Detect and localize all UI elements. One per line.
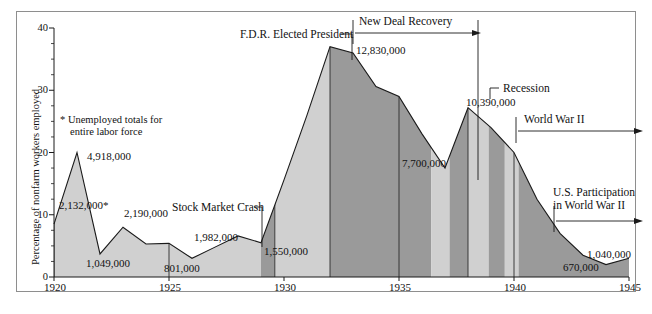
x-tick-label-1930: 1930 bbox=[264, 281, 306, 293]
x-tick-label-1945: 1945 bbox=[609, 281, 651, 293]
band-dark bbox=[519, 22, 629, 279]
x-tick-label-1925: 1925 bbox=[149, 281, 191, 293]
data-label-1932: 12,830,000 bbox=[356, 44, 406, 56]
annotation-fdr-elected: F.D.R. Elected President bbox=[240, 28, 353, 41]
y-axis bbox=[49, 28, 54, 277]
x-tick-label-1940: 1940 bbox=[494, 281, 536, 293]
footnote-line-2: entire labor force bbox=[70, 126, 142, 138]
data-label-1945: 1,040,000 bbox=[587, 248, 631, 260]
x-axis bbox=[54, 277, 629, 281]
band-dark bbox=[330, 22, 431, 279]
annotation-new-deal-recovery: New Deal Recovery bbox=[359, 15, 452, 28]
y-tick-label-20: 20 bbox=[26, 147, 48, 158]
x-tick-label-1920: 1920 bbox=[34, 281, 76, 293]
annotation-us-participation-line-1: U.S. Participation bbox=[553, 186, 635, 199]
y-tick-label-40: 40 bbox=[26, 22, 48, 33]
data-label-1935: 7,700,000 bbox=[402, 157, 446, 169]
band-dark bbox=[489, 22, 505, 279]
y-tick-label-30: 30 bbox=[26, 84, 48, 95]
footnote-line-1: * Unemployed totals for bbox=[60, 114, 162, 126]
data-label-1921: 4,918,000 bbox=[87, 150, 131, 162]
band-dark bbox=[450, 22, 468, 279]
data-label-1928: 1,982,000 bbox=[194, 231, 238, 243]
band-dark bbox=[261, 22, 275, 279]
x-tick-label-1935: 1935 bbox=[379, 281, 421, 293]
data-label-1923: 2,190,000 bbox=[124, 207, 168, 219]
data-label-1922: 1,049,000 bbox=[86, 257, 130, 269]
annotation-stock-market-crash: Stock Market Crash bbox=[172, 201, 264, 214]
annotation-world-war-ii: World War II bbox=[524, 113, 585, 126]
unemployment-area-chart: Percentage of nonfarm workers employed 4… bbox=[0, 0, 652, 314]
data-label-1944: 670,000 bbox=[563, 261, 599, 273]
data-label-1920: 2,132,000* bbox=[59, 199, 109, 211]
data-label-1926: 801,000 bbox=[164, 262, 200, 274]
band-light bbox=[275, 22, 330, 279]
annotation-recession: Recession bbox=[503, 82, 550, 95]
annotation-us-participation-line-2: in World War II bbox=[553, 199, 625, 212]
y-tick-label-10: 10 bbox=[26, 209, 48, 220]
band-light bbox=[431, 22, 449, 279]
data-label-1938: 10,390,000 bbox=[466, 96, 516, 108]
y-axis-title: Percentage of nonfarm workers employed bbox=[30, 89, 41, 265]
data-label-1929: 1,550,000 bbox=[264, 245, 308, 257]
